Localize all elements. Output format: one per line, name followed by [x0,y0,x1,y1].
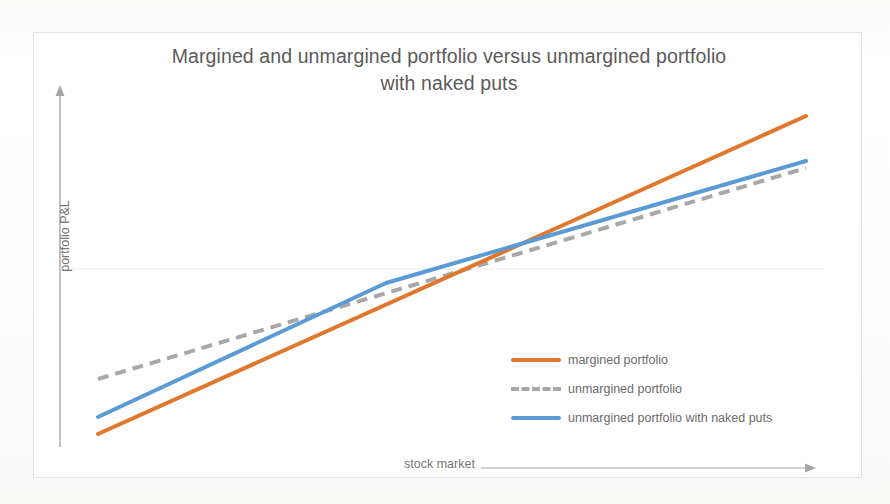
plot-area: portfolio P&L stock market margined port… [34,33,863,479]
legend-label-margined-portfolio: margined portfolio [568,353,668,367]
legend-label-unmargined-with-naked-puts: unmargined portfolio with naked puts [568,411,772,425]
legend-label-unmargined-portfolio: unmargined portfolio [568,382,682,396]
legend-swatch-blue-solid-icon [511,412,561,424]
x-axis-label: stock market [404,457,475,471]
x-axis-arrow-icon [481,464,816,473]
legend-swatch-gray-dashed-icon [511,383,561,395]
chart-frame: Margined and unmargined portfolio versus… [33,32,862,478]
legend-item-unmargined-with-naked-puts[interactable]: unmargined portfolio with naked puts [511,403,841,432]
legend-item-margined-portfolio[interactable]: margined portfolio [511,345,841,374]
y-axis-label: portfolio P&L [58,176,72,296]
legend-swatch-orange-solid-icon [511,354,561,366]
chart-legend: margined portfolio unmargined portfolio … [511,345,841,432]
legend-item-unmargined-portfolio[interactable]: unmargined portfolio [511,374,841,403]
screenshot-root: Margined and unmargined portfolio versus… [0,0,890,504]
